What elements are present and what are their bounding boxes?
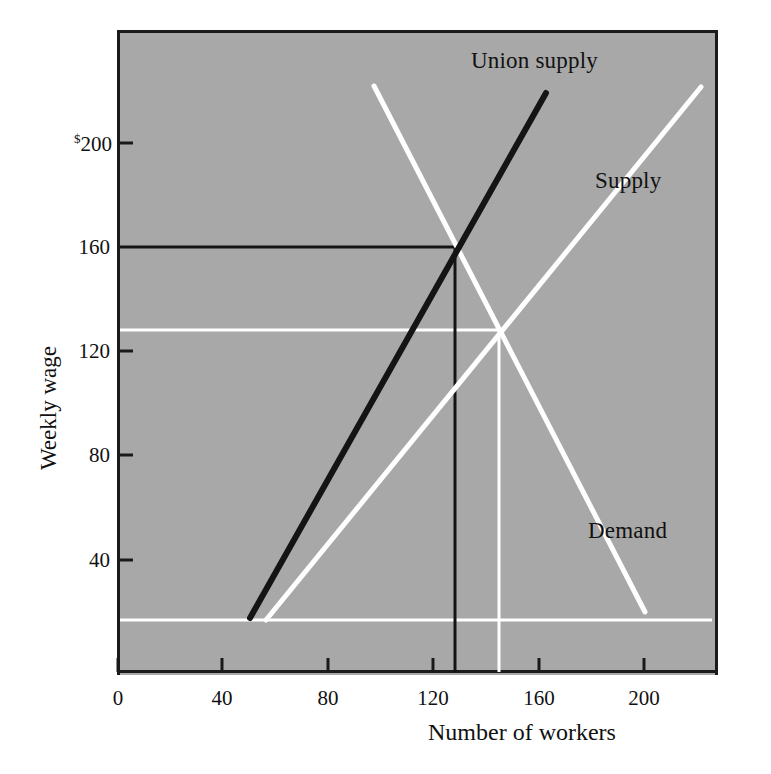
y-tick-label-40: 40 bbox=[40, 548, 110, 573]
union-supply-label: Union supply bbox=[471, 48, 598, 74]
chart-figure: $200 160 120 80 40 0 40 80 120 160 200 U… bbox=[0, 0, 771, 774]
x-tick-label-120: 120 bbox=[403, 686, 463, 711]
x-tick-label-200: 200 bbox=[614, 686, 674, 711]
x-tick-label-80: 80 bbox=[298, 686, 358, 711]
y-axis-title: Weekly wage bbox=[36, 346, 62, 470]
y-axis-line bbox=[117, 30, 120, 675]
x-tick-label-160: 160 bbox=[509, 686, 569, 711]
demand-label: Demand bbox=[588, 518, 667, 544]
y-tick-label-160: 160 bbox=[40, 235, 110, 260]
x-axis-line bbox=[117, 670, 715, 673]
x-tick-label-0: 0 bbox=[88, 686, 148, 711]
plot-area bbox=[117, 30, 718, 675]
x-tick-label-40: 40 bbox=[192, 686, 252, 711]
x-axis-title: Number of workers bbox=[428, 719, 616, 746]
supply-label: Supply bbox=[595, 168, 661, 194]
y-tick-label-200: $200 bbox=[40, 131, 112, 157]
